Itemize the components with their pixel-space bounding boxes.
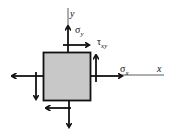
y-axis-label: y [69, 8, 75, 19]
tau-xy-label: τxy [97, 36, 108, 50]
stress-element-diagram: y x σy τxy σx [0, 0, 172, 137]
x-axis-label: x [156, 63, 162, 74]
sigma-y-label: σy [75, 24, 84, 38]
stress-element-square [44, 53, 91, 101]
